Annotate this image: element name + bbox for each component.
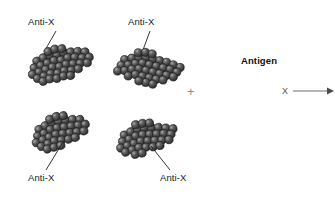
antibody-label-bottom-right: Anti-X: [160, 172, 186, 183]
immunology-diagram-canvas: Anti-X: [0, 0, 335, 216]
leader-line-bottom-right-icon: [0, 0, 335, 216]
